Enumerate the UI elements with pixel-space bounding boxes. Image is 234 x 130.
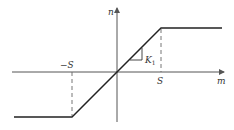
slope-triangle — [130, 48, 142, 60]
x-axis-label: m — [217, 76, 226, 86]
saturation-diagram: n m S −S K1 — [0, 0, 234, 130]
pos-threshold-label: S — [157, 76, 163, 86]
slope-label: K1 — [144, 55, 156, 66]
y-axis-label: n — [108, 7, 114, 17]
neg-threshold-label: −S — [60, 60, 74, 70]
slope-label-sub: 1 — [152, 59, 156, 66]
